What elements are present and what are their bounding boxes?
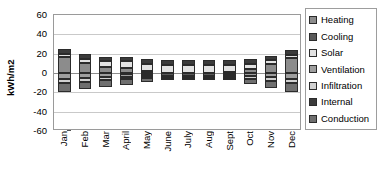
bar-group <box>161 15 174 129</box>
plot-area <box>53 14 301 130</box>
bar-segment <box>58 83 71 92</box>
bar-segment <box>120 61 133 68</box>
bar-group <box>79 15 92 129</box>
bar-segment <box>120 79 133 84</box>
bar-segment <box>265 60 278 63</box>
bar-segment <box>79 63 92 73</box>
x-tick-label: May <box>141 131 152 149</box>
bar-segment <box>244 59 257 64</box>
legend-item: Solar <box>309 45 376 61</box>
bar-segment <box>99 61 112 67</box>
y-tick-label: 40 <box>36 28 47 39</box>
bar-segment <box>265 56 278 61</box>
legend-label: Internal <box>321 97 353 107</box>
bar-segment <box>285 58 298 73</box>
bar-segment <box>58 57 71 73</box>
bar-segment <box>161 65 174 73</box>
bar-group <box>182 15 195 129</box>
legend-swatch-icon <box>309 98 317 106</box>
legend-label: Infiltration <box>321 81 362 91</box>
bar-segment <box>223 78 236 81</box>
bar-segment <box>285 55 298 58</box>
bar-segment <box>285 83 298 92</box>
bar-group <box>265 15 278 129</box>
x-tick-label: Oct <box>244 131 255 146</box>
x-axis-ticks: JanFebMarAprilMayJuneJulyAugSeptOctNovDe… <box>53 131 301 183</box>
legend-label: Solar <box>321 48 343 58</box>
bar-segment <box>203 78 216 80</box>
y-tick-label: 20 <box>36 47 47 58</box>
bar-segment <box>58 54 71 57</box>
legend-item: Internal <box>309 94 376 110</box>
legend-label: Cooling <box>321 32 353 42</box>
y-tick-label: 0 <box>42 67 47 78</box>
bar-segment <box>182 65 195 73</box>
bar-segment <box>203 65 216 72</box>
bar-segment <box>244 79 257 84</box>
legend-label: Conduction <box>321 114 369 124</box>
x-tick-label: April <box>120 131 131 150</box>
x-tick-label: July <box>182 131 193 148</box>
bar-segment <box>223 65 236 71</box>
bar-segment <box>99 57 112 62</box>
bar-segment <box>265 81 278 88</box>
bar-segment <box>182 78 195 80</box>
bar-segment <box>141 59 154 64</box>
x-tick-label: Feb <box>79 131 90 147</box>
bar-segment <box>58 49 71 54</box>
bar-group <box>120 15 133 129</box>
bar-segment <box>161 78 174 80</box>
legend-item: Cooling <box>309 28 376 44</box>
bar-segment <box>79 82 92 90</box>
bar-segment <box>182 60 195 65</box>
chart-figure: kWh/m2 6040200-20-40-60 JanFebMarAprilMa… <box>0 0 380 187</box>
bar-segment <box>244 64 257 69</box>
x-tick-label: Mar <box>100 131 111 147</box>
bar-segment <box>141 78 154 81</box>
legend-swatch-icon <box>309 82 317 90</box>
bar-segment <box>265 64 278 73</box>
chart-legend: HeatingCoolingSolarVentilationInfiltrati… <box>305 8 377 130</box>
legend-swatch-icon <box>309 49 317 57</box>
legend-item: Heating <box>309 12 376 28</box>
bar-segment <box>161 60 174 65</box>
legend-label: Heating <box>321 15 354 25</box>
y-axis-title: kWh/m2 <box>2 42 18 114</box>
x-tick-label: Jan <box>58 131 69 146</box>
bar-group <box>203 15 216 129</box>
x-tick-label: Nov <box>265 131 276 148</box>
legend-swatch-icon <box>309 33 317 41</box>
legend-swatch-icon <box>309 16 317 24</box>
legend-item: Ventilation <box>309 61 376 77</box>
x-tick-label: Sept <box>224 131 235 151</box>
bar-segment <box>99 80 112 86</box>
bar-group <box>58 15 71 129</box>
bar-segment <box>285 50 298 55</box>
bar-group <box>223 15 236 129</box>
y-tick-label: 60 <box>36 9 47 20</box>
bar-segment <box>203 60 216 65</box>
bar-segment <box>120 57 133 62</box>
legend-swatch-icon <box>309 115 317 123</box>
bar-group <box>141 15 154 129</box>
x-tick-label: Aug <box>203 131 214 148</box>
bar-segment <box>79 54 92 59</box>
legend-item: Infiltration <box>309 78 376 94</box>
legend-item: Conduction <box>309 110 376 126</box>
y-axis-ticks: 6040200-20-40-60 <box>18 14 51 130</box>
y-tick-label: -60 <box>33 125 47 136</box>
x-tick-label: June <box>162 131 173 152</box>
bar-group <box>244 15 257 129</box>
bar-segment <box>223 60 236 65</box>
legend-swatch-icon <box>309 65 317 73</box>
bar-group <box>99 15 112 129</box>
y-tick-label: -20 <box>33 86 47 97</box>
x-tick-label: Dec <box>286 131 297 148</box>
bar-group <box>285 15 298 129</box>
bar-segment <box>141 64 154 71</box>
legend-label: Ventilation <box>321 65 365 75</box>
bar-segment <box>79 59 92 63</box>
y-tick-label: -40 <box>33 105 47 116</box>
